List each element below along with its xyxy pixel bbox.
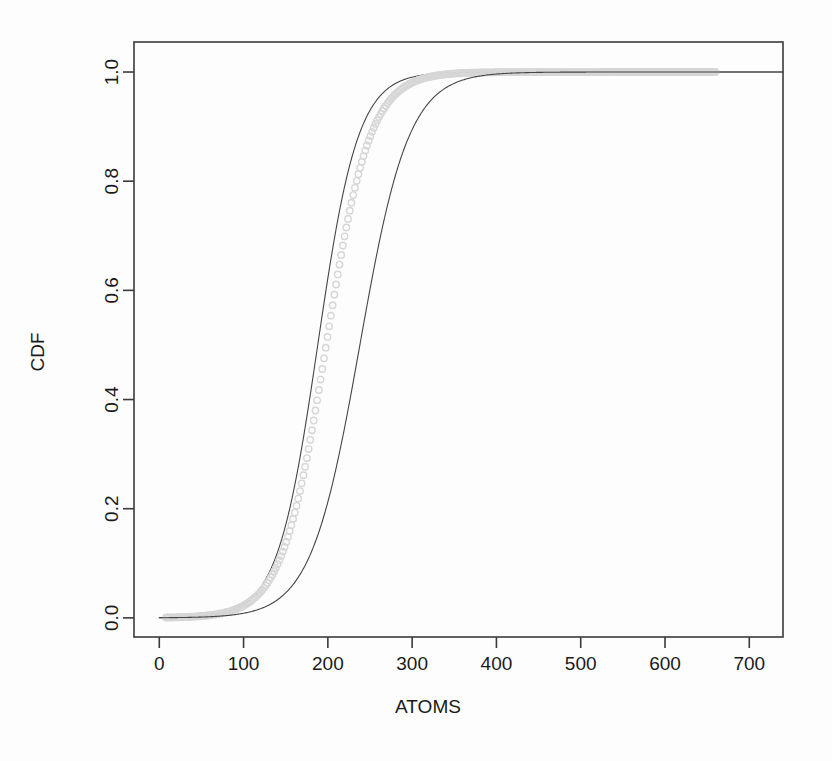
y-tick-label: 0.2 xyxy=(102,496,123,522)
y-tick-label: 0.8 xyxy=(102,168,123,194)
x-tick-label: 100 xyxy=(228,653,260,674)
y-axis-title: CDF xyxy=(27,332,48,371)
x-tick-label: 300 xyxy=(396,653,428,674)
x-tick-label: 400 xyxy=(481,653,513,674)
x-tick-label: 700 xyxy=(733,653,765,674)
x-tick-label: 600 xyxy=(649,653,681,674)
x-tick-label: 200 xyxy=(312,653,344,674)
plot-background xyxy=(0,0,832,761)
x-tick-label: 0 xyxy=(154,653,165,674)
x-tick-label: 500 xyxy=(565,653,597,674)
x-axis-title: ATOMS xyxy=(395,696,461,717)
y-tick-label: 0.4 xyxy=(102,386,123,413)
cdf-plot: 0100200300400500600700 0.00.20.40.60.81.… xyxy=(0,0,832,761)
y-tick-label: 0.0 xyxy=(102,605,123,631)
figure-canvas: 0100200300400500600700 0.00.20.40.60.81.… xyxy=(0,0,832,761)
y-tick-label: 1.0 xyxy=(102,59,123,85)
y-tick-label: 0.6 xyxy=(102,277,123,303)
